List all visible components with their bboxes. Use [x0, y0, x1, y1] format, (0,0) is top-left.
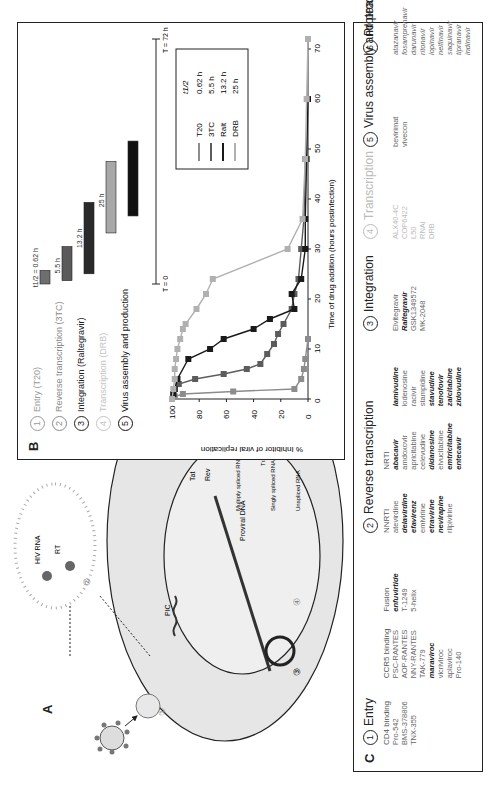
drug-column: CD4 bindingPro-542BMS-378806TNX-355	[382, 701, 418, 745]
drug-name: racivir	[409, 367, 418, 406]
drug-column: ALX40-4CCOP6422L50RNAiDRB	[382, 204, 436, 239]
data-point-T20	[230, 389, 236, 395]
x-tick-label: 50	[313, 144, 322, 153]
data-point-DRB	[169, 396, 175, 402]
legend-name-3TC: 3TC	[207, 122, 216, 137]
timeline-label-DRB: 25 h	[98, 193, 105, 207]
drug-name: DRB	[427, 204, 436, 239]
legend-header: t1/2	[181, 80, 190, 94]
drug-name: zalcitabine	[445, 367, 454, 406]
data-point-T20	[302, 356, 308, 362]
drug-name: emivirine	[418, 493, 427, 533]
data-point-3TC	[221, 371, 227, 377]
step-number-badge: 6	[363, 40, 378, 55]
series-line-3TC	[172, 159, 305, 399]
singly-spliced-label: Singly spliced RNA	[270, 460, 276, 511]
drug-column: bevirimatvivecon	[382, 117, 409, 147]
tat-label: Tat	[189, 472, 196, 481]
step-number-badge: 5	[363, 132, 378, 147]
drug-name: etravirine	[427, 493, 436, 533]
drug-name: tipranavir	[454, 7, 463, 55]
data-point-DRB	[173, 356, 179, 362]
data-point-DRB	[304, 96, 310, 102]
drug-name: lodenosine	[400, 367, 409, 406]
data-point-3TC	[257, 361, 263, 367]
series-line-T20	[172, 339, 308, 399]
timeline-bar-assembly	[128, 141, 138, 216]
drug-name: L50	[409, 204, 418, 239]
data-point-T20	[180, 391, 186, 397]
unspliced-label: Unspliced RNA	[295, 470, 301, 511]
drug-column: CCR5 bindingPSC-RANTESAOP-RANTESNNY-RANT…	[382, 629, 463, 679]
multiply-spliced-label: Multiply spliced RNA	[235, 456, 241, 511]
drug-group-title: 4Transcription	[362, 159, 378, 239]
drug-name: T-1249	[400, 573, 409, 611]
drug-name: tenofovir	[436, 367, 445, 406]
drug-name: zidovudine	[454, 367, 463, 406]
drug-name: stampidine	[418, 367, 427, 406]
drug-name: Pro-140	[454, 629, 463, 679]
drug-name: indinavir	[463, 7, 472, 55]
data-point-DRB	[203, 291, 209, 297]
data-point-DRB	[183, 321, 189, 327]
drug-name: vicriviroc	[436, 629, 445, 679]
step-number-badge: 2	[363, 518, 378, 533]
pic-label: PIC	[164, 604, 171, 616]
timeline-label-Ralt: 13.2 h	[76, 228, 83, 248]
drug-timeline: t1/2 = 0.62 h5.5 h13.2 h25 hT = 0T = 72 …	[18, 23, 168, 459]
inhibition-chart: 010203040506070020406080100Time of drug …	[158, 23, 344, 459]
drug-column: NRTIabacaviramdoxovirapricitabinecelevud…	[382, 423, 463, 470]
column-header	[382, 286, 391, 331]
drug-name: entecavir	[454, 423, 463, 470]
drug-group-title: 5Virus assembly and production	[362, 67, 378, 147]
drug-name: atazanavir	[391, 7, 400, 55]
data-point-DRB	[193, 306, 199, 312]
drug-group-title: 6Protease processing	[362, 0, 378, 55]
drug-name: aplaviroc	[445, 629, 454, 679]
x-axis-label: Time of drug addition (hours postinfecti…	[327, 179, 336, 329]
data-point-DRB	[210, 276, 216, 282]
drug-name: ritonavir	[418, 7, 427, 55]
timeline-bar-DRB	[106, 162, 116, 233]
drug-name: bevirimat	[391, 117, 400, 147]
figure: A ① HIV RNA RT ② PIC	[0, 0, 499, 786]
step-number-badge: 1	[363, 730, 378, 745]
drug-name: Elvitegravir	[391, 286, 400, 331]
data-point-DRB	[174, 346, 180, 352]
data-point-3TC	[271, 341, 277, 347]
drug-name: nevirapine	[436, 493, 445, 533]
data-point-DRB	[177, 336, 183, 342]
column-header: Fusion	[382, 573, 391, 611]
data-point-DRB	[305, 36, 311, 42]
drug-name: rilpivirine	[445, 493, 454, 533]
data-point-T20	[291, 386, 297, 392]
data-point-3TC	[264, 351, 270, 357]
drug-name: abacavir	[391, 423, 400, 470]
drug-name: vivecon	[400, 117, 409, 147]
drug-name: PSC-RANTES	[391, 629, 400, 679]
data-point-T20	[305, 336, 311, 342]
drug-group-3: 4Transcription ALX40-4CCOP6422L50RNAiDRB	[362, 159, 378, 239]
drug-name: delavirdine	[400, 493, 409, 533]
drug-name: 5-helix	[409, 573, 418, 611]
x-tick-label: 0	[313, 398, 322, 403]
data-point-3TC	[192, 376, 198, 382]
legend-name-T20: T20	[195, 123, 204, 137]
drug-name: GSK1349572	[409, 286, 418, 331]
data-point-T20	[298, 376, 304, 382]
legend-name-Ralt: Ralt	[219, 122, 228, 137]
timeline-bar-T20	[40, 270, 50, 284]
drug-name: amdoxovir	[400, 423, 409, 470]
drug-name: lopinavir	[427, 7, 436, 55]
drug-name: darunavir	[409, 7, 418, 55]
drug-name: elvucitabine	[436, 423, 445, 470]
data-point-Ralt	[302, 246, 308, 252]
y-tick-label: 60	[222, 410, 231, 419]
drug-name: celevudine	[418, 423, 427, 470]
y-tick-label: 40	[250, 410, 259, 419]
timeline-bar-3TC	[62, 247, 72, 281]
column-header	[382, 204, 391, 239]
data-point-Ralt	[298, 276, 304, 282]
x-tick-label: 20	[313, 294, 322, 303]
drug-name: emtricitabine	[445, 423, 454, 470]
